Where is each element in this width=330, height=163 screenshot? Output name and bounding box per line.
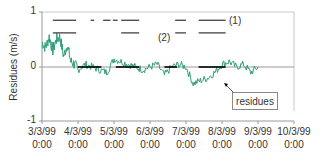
residues-line — [42, 33, 258, 86]
x-tick-time: 0:00 — [202, 138, 242, 151]
x-tick-time: 0:00 — [22, 138, 62, 151]
x-tick-date: 3/3/99 — [22, 125, 62, 138]
series-label-2: (2) — [158, 32, 170, 43]
x-tick-time: 0:00 — [58, 138, 98, 151]
x-tick-label: 4/3/990:00 — [58, 125, 98, 151]
x-tick-label: 8/3/990:00 — [202, 125, 242, 151]
x-tick-label: 7/3/990:00 — [166, 125, 206, 151]
x-tick-time: 0:00 — [130, 138, 170, 151]
x-tick-time: 0:00 — [166, 138, 206, 151]
y-tick-0: 0 — [16, 60, 36, 71]
series-label-1: (1) — [229, 15, 241, 26]
x-tick-time: 0:00 — [274, 138, 314, 151]
y-tick-1: 1 — [16, 5, 36, 16]
x-tick-time: 0:00 — [238, 138, 278, 151]
x-tick-date: 4/3/99 — [58, 125, 98, 138]
y-tick-minus-1: -1 — [16, 114, 36, 125]
x-tick-label: 5/3/990:00 — [94, 125, 134, 151]
residues-chart: Residues (m/s) 1 0 -1 3/3/990:004/3/990:… — [0, 0, 330, 163]
residues-callout: residues — [232, 92, 278, 110]
x-tick-label: 9/3/990:00 — [238, 125, 278, 151]
x-tick-date: 6/3/99 — [130, 125, 170, 138]
x-tick-date: 10/3/99 — [274, 125, 314, 138]
x-tick-date: 8/3/99 — [202, 125, 242, 138]
x-tick-date: 9/3/99 — [238, 125, 278, 138]
x-tick-date: 5/3/99 — [94, 125, 134, 138]
x-tick-label: 3/3/990:00 — [22, 125, 62, 151]
x-tick-date: 7/3/99 — [166, 125, 206, 138]
x-tick-label: 6/3/990:00 — [130, 125, 170, 151]
x-tick-label: 10/3/990:00 — [274, 125, 314, 151]
x-tick-time: 0:00 — [94, 138, 134, 151]
